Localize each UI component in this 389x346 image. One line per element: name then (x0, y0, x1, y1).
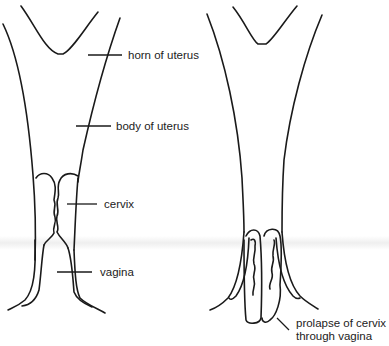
uterus-diagram-figure: horn of uterus body of uterus cervix vag… (0, 0, 389, 346)
left-outer-wall-right (78, 18, 120, 182)
right-prolapse-uterus (207, 6, 322, 330)
right-horn-notch (233, 6, 297, 44)
label-body-of-uterus: body of uterus (116, 120, 189, 133)
label-vagina: vagina (100, 266, 134, 279)
right-outer-wall-left (207, 14, 244, 232)
right-vagina-flare-left-outer (210, 232, 244, 310)
left-cervix-left-lip (36, 174, 55, 246)
left-cervix-right-wall (74, 178, 78, 250)
left-vagina-inner-left (22, 245, 44, 306)
right-prolapse-right-inner (270, 240, 275, 289)
label-cervix: cervix (104, 198, 134, 211)
left-vagina-outer-left (8, 240, 35, 310)
right-prolapse-left-inner (251, 239, 255, 295)
right-outer-wall-right (282, 15, 322, 232)
label-prolapse-line2: through vagina (296, 330, 372, 343)
left-outer-wall-left (3, 24, 35, 260)
left-horn-notch (21, 6, 98, 54)
label-horn-of-uterus: horn of uterus (128, 49, 199, 62)
leader-prolapse (277, 318, 289, 330)
label-prolapse-line1: prolapse of cervix (296, 317, 386, 330)
left-vagina-outer-right (74, 250, 105, 313)
